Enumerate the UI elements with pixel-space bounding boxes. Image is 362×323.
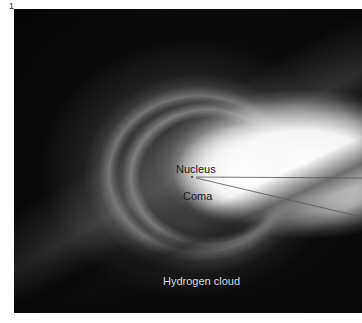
nucleus-marker <box>191 176 193 178</box>
hydrogen-cloud-label: Hydrogen cloud <box>163 275 240 287</box>
nucleus-leader-line <box>196 177 362 178</box>
coma-label: Coma <box>183 190 212 202</box>
nucleus-label: Nucleus <box>176 163 216 175</box>
coma-leader-line <box>196 178 362 217</box>
